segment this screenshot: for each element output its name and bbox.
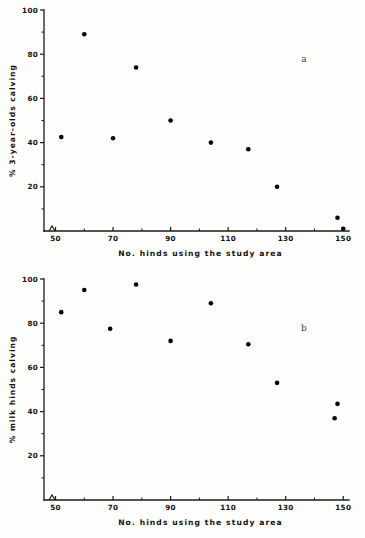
x-tick-label: 50 — [50, 503, 61, 512]
data-point — [335, 402, 340, 407]
data-point — [209, 140, 214, 145]
data-point — [111, 136, 116, 141]
data-point — [246, 342, 251, 347]
y-tick-label: 80 — [27, 50, 38, 59]
y-tick-label: 40 — [27, 407, 38, 416]
panel-letter: a — [301, 54, 307, 64]
x-tick-label: 70 — [108, 503, 119, 512]
data-point — [59, 310, 64, 315]
y-tick-label: 100 — [22, 6, 38, 15]
y-tick-label: 60 — [27, 94, 38, 103]
y-tick-label: 80 — [27, 319, 38, 328]
data-point — [82, 32, 87, 37]
y-axis-title: % 3-year-olds calving — [8, 64, 17, 177]
data-point — [134, 65, 139, 70]
data-point — [335, 215, 340, 220]
x-tick-label: 90 — [165, 503, 176, 512]
x-axis-title: No. hinds using the study area — [118, 249, 283, 258]
scatter-plot-a: 20406080100507090110130150No. hinds usin… — [0, 0, 365, 269]
x-tick-label: 150 — [335, 503, 351, 512]
data-point — [209, 301, 214, 306]
data-point — [275, 185, 280, 190]
data-point — [168, 339, 173, 344]
chart-panel-a: 20406080100507090110130150No. hinds usin… — [0, 0, 365, 269]
x-axis-break-mark — [49, 495, 55, 500]
data-point — [332, 416, 337, 421]
data-point — [246, 147, 251, 152]
x-axis-break-mark — [49, 226, 55, 231]
data-point — [82, 288, 87, 293]
x-tick-label: 130 — [278, 234, 294, 243]
chart-panel-b: 20406080100507090110130150No. hinds usin… — [0, 269, 365, 538]
x-axis-title: No. hinds using the study area — [118, 518, 283, 527]
x-tick-label: 50 — [50, 234, 61, 243]
figure-container: 20406080100507090110130150No. hinds usin… — [0, 0, 365, 538]
data-point — [134, 282, 139, 287]
y-tick-label: 60 — [27, 363, 38, 372]
x-tick-label: 130 — [278, 503, 294, 512]
y-tick-label: 40 — [27, 138, 38, 147]
panel-letter: b — [301, 323, 307, 333]
y-tick-label: 100 — [22, 275, 38, 284]
data-point — [108, 326, 113, 331]
x-tick-label: 90 — [165, 234, 176, 243]
data-point — [59, 135, 64, 140]
data-point — [341, 226, 346, 231]
x-tick-label: 110 — [220, 503, 236, 512]
y-tick-label: 20 — [27, 182, 38, 191]
data-point — [275, 381, 280, 386]
x-tick-label: 70 — [108, 234, 119, 243]
scatter-plot-b: 20406080100507090110130150No. hinds usin… — [0, 269, 365, 538]
y-axis-title: % milk hinds calving — [8, 336, 17, 444]
data-point — [168, 118, 173, 123]
y-tick-label: 20 — [27, 451, 38, 460]
x-tick-label: 150 — [335, 234, 351, 243]
x-tick-label: 110 — [220, 234, 236, 243]
